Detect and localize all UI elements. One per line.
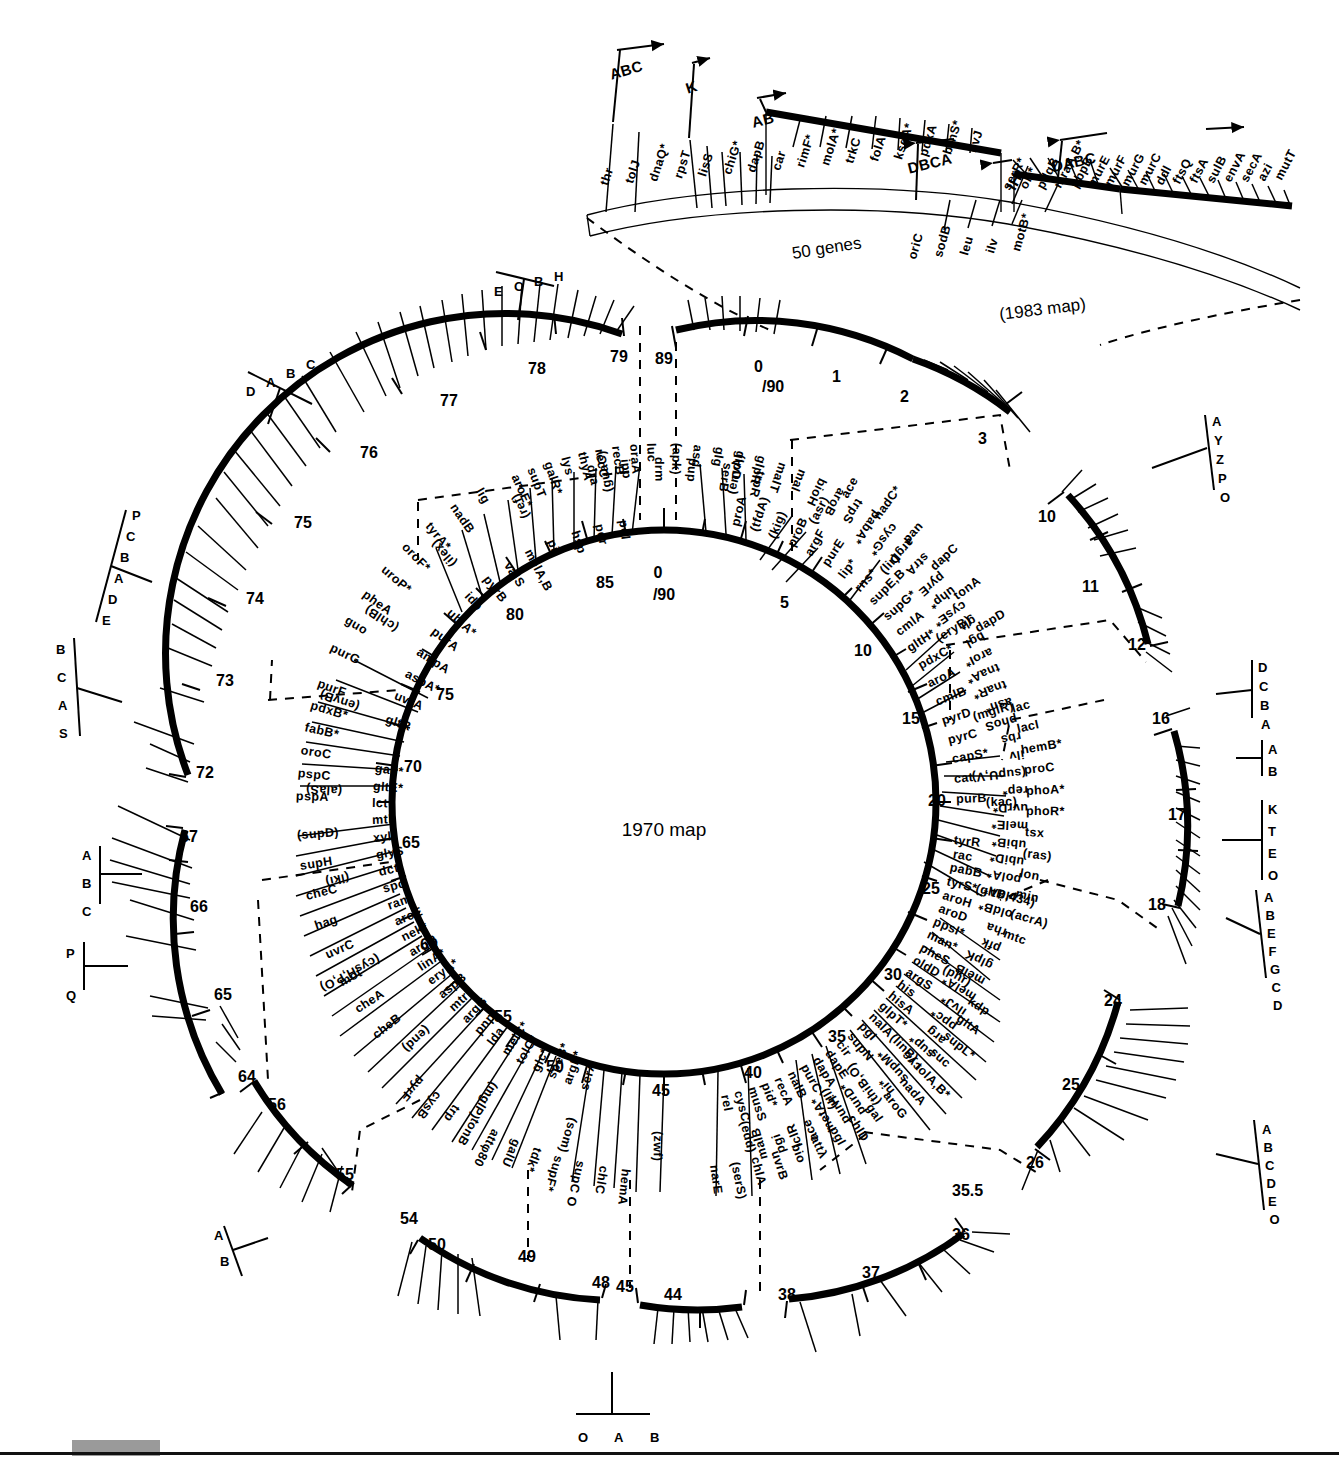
outer-gene-54-56: oraA — [627, 444, 643, 475]
outer-gene-10-12: phoA* — [1025, 782, 1064, 798]
bracket-letters-lac: A — [1212, 414, 1222, 429]
center-map-label: 1970 map — [622, 819, 707, 840]
bracket-letters-ilv: D — [108, 592, 118, 607]
svg-text:45: 45 — [652, 1082, 670, 1099]
svg-text:55: 55 — [494, 1008, 512, 1025]
svg-text:85: 85 — [596, 574, 614, 591]
svg-text:0: 0 — [654, 564, 663, 581]
bracket-letters-metA: E — [494, 284, 503, 299]
svg-text:12: 12 — [1128, 636, 1146, 653]
bracket-letters-glt: S — [59, 726, 68, 741]
bracket-letters-kdp: A — [1261, 717, 1271, 732]
bracket-letters-lac: O — [1220, 490, 1231, 505]
outer-gene-10-12: phoR* — [1026, 804, 1065, 818]
outer-gene-64-67: asd — [689, 444, 705, 468]
svg-text:78: 78 — [528, 360, 546, 377]
bracket-letters-ilv: C — [126, 529, 136, 544]
svg-text:76: 76 — [360, 444, 378, 461]
bracket-letters-lac: Y — [1214, 433, 1223, 448]
bracket-letters-glg: C — [82, 904, 92, 919]
svg-text:80: 80 — [506, 606, 524, 623]
bracket-letters-guo: A — [614, 1430, 624, 1445]
bracket-letters-glt: A — [58, 698, 68, 713]
svg-text:26: 26 — [1026, 1154, 1044, 1171]
inner-gene-25-45: rel — [718, 1093, 735, 1112]
outer-gene-72-79: ubiB* — [991, 834, 1027, 851]
bracket-letters-suc: B — [1268, 764, 1278, 779]
svg-text:77: 77 — [440, 392, 458, 409]
svg-text:65: 65 — [402, 834, 420, 851]
bracket-letters-metA: B — [534, 274, 544, 289]
svg-text:37: 37 — [862, 1264, 880, 1281]
svg-text:25: 25 — [1062, 1076, 1080, 1093]
bracket-letters-gal: E — [1268, 846, 1277, 861]
svg-text:54: 54 — [400, 1210, 418, 1227]
svg-text:36: 36 — [952, 1226, 970, 1243]
outer-gene-72-79: ilv — [1008, 747, 1025, 763]
bracket-letters-ilv: E — [102, 613, 111, 628]
svg-text:10: 10 — [1038, 508, 1056, 525]
svg-text:3: 3 — [978, 430, 987, 447]
bracket-letters-bio: E — [1267, 926, 1276, 941]
svg-text:55: 55 — [336, 1166, 354, 1183]
bracket-letters-gal: T — [1268, 824, 1276, 839]
bracket-letters-bio: F — [1269, 944, 1277, 959]
bracket-letters-glg: A — [82, 848, 92, 863]
bracket-letters-rha: A — [266, 375, 276, 390]
bracket-letters-ilv: B — [120, 550, 130, 565]
inset-title-label: (1983 map) — [998, 295, 1087, 324]
svg-text:73: 73 — [216, 672, 234, 689]
svg-text:24: 24 — [1104, 992, 1122, 1009]
svg-text:65: 65 — [214, 986, 232, 1003]
svg-text:89: 89 — [655, 350, 673, 367]
bracket-letters-bio: D — [1273, 998, 1283, 1013]
svg-text:67: 67 — [180, 828, 198, 845]
inner-dashed-label: (kac) — [986, 795, 1017, 810]
svg-text:0: 0 — [754, 358, 763, 375]
bracket-letters-glt: B — [56, 642, 66, 657]
bracket-letters-gal: K — [1268, 802, 1278, 817]
svg-text:79: 79 — [610, 348, 628, 365]
outer-gene-64-67: glg — [710, 446, 727, 468]
outer-gene-10-12: (ras) — [1023, 846, 1054, 863]
bracket-letters-lac: P — [1218, 471, 1227, 486]
outer-gene-35-38: (supD) — [296, 825, 339, 842]
inner-dashed-label: (zwf) — [651, 1131, 666, 1162]
bracket-letters-trp: A — [1262, 1122, 1272, 1137]
svg-text:38: 38 — [778, 1286, 796, 1303]
svg-text:49: 49 — [518, 1248, 536, 1265]
inset-scale-label: 50 genes — [791, 233, 863, 263]
inner-gene-0-25: purB — [956, 791, 987, 806]
inner-gene-45-70: gltE* — [372, 779, 404, 795]
bracket-letters-bio: C — [1272, 980, 1282, 995]
bracket-letters-trp: O — [1270, 1212, 1281, 1227]
bracket-letters-trp: B — [1264, 1140, 1274, 1155]
bracket-letters-lys: B — [220, 1254, 230, 1269]
svg-text:66: 66 — [190, 898, 208, 915]
svg-text:17: 17 — [1168, 806, 1186, 823]
svg-text:5: 5 — [780, 594, 789, 611]
svg-text:45: 45 — [616, 1278, 634, 1295]
svg-text:15: 15 — [902, 710, 920, 727]
outer-gene-54-56: luc — [644, 443, 659, 463]
bracket-letters-guo: O — [578, 1430, 589, 1445]
bracket-letters-rha: C — [306, 357, 316, 372]
svg-text:72: 72 — [196, 764, 214, 781]
inner-gene-45-70: xyl — [373, 829, 393, 845]
genetic-map-figure: 89 0/90 1 2 3 10 11 12 16 17 18 24 25 26… — [0, 0, 1339, 1474]
outer-gene-64-67: (apk) — [669, 443, 684, 475]
svg-text:20: 20 — [928, 792, 946, 809]
bracket-letters-glg: B — [82, 876, 92, 891]
svg-text:25: 25 — [922, 880, 940, 897]
bracket-letters-metA: H — [554, 269, 564, 284]
outer-gene-72-79: melE* — [991, 818, 1028, 834]
svg-text:74: 74 — [246, 590, 264, 607]
svg-text:44: 44 — [664, 1286, 682, 1303]
svg-text:50: 50 — [428, 1236, 446, 1253]
bracket-letters-lac: Z — [1216, 452, 1224, 467]
bracket-letters-bio: A — [1264, 890, 1274, 905]
svg-text:18: 18 — [1148, 896, 1166, 913]
inner-gene-45-70: mtl — [372, 813, 392, 828]
bracket-letters-gal: O — [1268, 868, 1279, 883]
bracket-letters-trp: C — [1265, 1158, 1275, 1173]
